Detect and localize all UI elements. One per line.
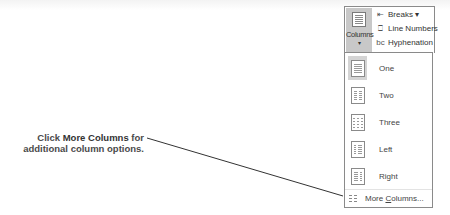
line-numbers-icon: ⎕: [375, 24, 386, 33]
menu-item-left[interactable]: Left: [345, 136, 432, 164]
breaks-icon: ⇤: [375, 10, 386, 19]
hyphenation-button[interactable]: bc Hyphenation: [375, 36, 433, 49]
menu-item-label: Left: [379, 145, 392, 154]
breaks-button[interactable]: ⇤ Breaks ▾: [375, 8, 419, 21]
right-column-icon: [348, 164, 367, 188]
hyphenation-label: Hyphenation: [388, 38, 433, 47]
menu-item-label: Two: [379, 91, 394, 100]
columns-label: Columns: [346, 30, 372, 39]
chevron-down-icon: ▾: [346, 39, 372, 46]
menu-item-three[interactable]: Three: [345, 109, 432, 137]
columns-dropdown-menu: One Two Three Left: [344, 52, 433, 208]
menu-item-label: Right: [379, 172, 398, 181]
more-columns-label: More Columns...: [365, 194, 424, 203]
more-columns-icon: [349, 195, 357, 202]
menu-item-label: Three: [379, 118, 400, 127]
columns-icon: [352, 12, 366, 27]
left-column-icon: [348, 137, 367, 161]
two-columns-icon: [348, 83, 367, 107]
three-columns-icon: [348, 110, 367, 134]
menu-item-label: One: [379, 64, 394, 73]
menu-item-two[interactable]: Two: [345, 82, 432, 110]
page-setup-ribbon-group: Columns ▾ ⇤ Breaks ▾ ⎕ Line Numbers bc H…: [344, 6, 435, 53]
line-numbers-button[interactable]: ⎕ Line Numbers: [375, 22, 438, 35]
breaks-label: Breaks ▾: [388, 10, 419, 19]
hyphenation-icon: bc: [375, 38, 386, 47]
line-numbers-label: Line Numbers: [388, 24, 438, 33]
one-column-icon: [348, 56, 367, 80]
more-columns-menu-item[interactable]: More Columns...: [345, 189, 432, 208]
menu-item-one[interactable]: One: [345, 55, 432, 83]
columns-button[interactable]: Columns ▾: [346, 8, 372, 53]
menu-item-right[interactable]: Right: [345, 163, 432, 191]
